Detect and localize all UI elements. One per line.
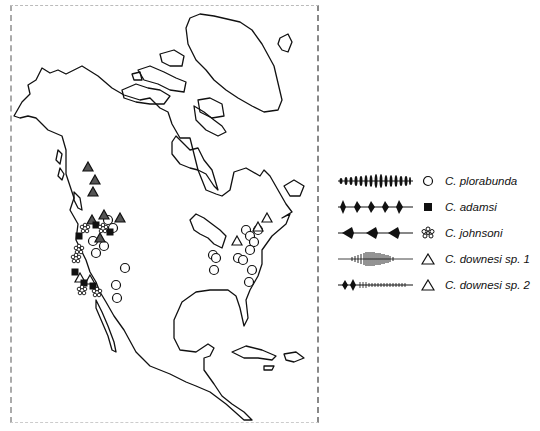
newfoundland — [284, 180, 304, 196]
asterisk-flower-icon — [421, 226, 435, 240]
square-marker-icon — [76, 233, 83, 240]
legend-label: C. downesi sp. 1 — [445, 253, 530, 265]
arctic-island-4 — [132, 72, 142, 80]
shaded-triangle-marker-icon — [99, 210, 109, 219]
legend-row-johnsoni: C. johnsoni — [338, 220, 530, 246]
cuba — [232, 346, 276, 360]
asterisk-marker-icon — [92, 289, 96, 293]
circle-marker-icon — [239, 256, 248, 265]
circle-marker-icon — [210, 266, 219, 275]
baffin-island — [194, 106, 226, 136]
asterisk-marker-icon — [82, 291, 86, 295]
asterisk-marker-icon — [83, 287, 87, 291]
asterisk-marker-icon — [86, 225, 90, 229]
arctic-island-2 — [138, 66, 186, 92]
open-triangle-marker-icon — [232, 236, 242, 245]
legend-row-plorabunda: C. plorabunda — [338, 168, 530, 194]
open-triangle-marker-icon — [262, 213, 272, 222]
open-triangle-icon — [421, 252, 435, 266]
filled-square-icon — [421, 200, 435, 214]
asterisk-marker-icon — [98, 289, 102, 293]
circle-marker-icon — [100, 242, 109, 251]
shaded-triangle-marker-icon — [88, 187, 98, 196]
jamaica — [264, 366, 274, 370]
asterisk-marker-icon — [79, 250, 83, 254]
asterisk-marker-icon — [72, 259, 76, 263]
hispaniola — [284, 352, 304, 362]
arctic-island-5 — [198, 98, 224, 118]
greenland — [186, 14, 282, 112]
circle-marker-icon — [248, 266, 257, 275]
asterisk-marker-icon — [97, 293, 101, 297]
circle-marker-icon — [245, 278, 254, 287]
asterisk-marker-icon — [74, 246, 78, 250]
hudson-bay — [172, 136, 218, 190]
asterisk-marker-icon — [104, 225, 108, 229]
asterisk-marker-icon — [99, 229, 103, 233]
baja-california — [96, 300, 116, 352]
waveform-triangular-pulse-icon — [338, 224, 413, 242]
asterisk-marker-icon — [80, 246, 84, 250]
legend-row-downesi-1: C. downesi sp. 1 — [338, 246, 530, 272]
north-america-map — [0, 0, 330, 431]
circle-marker-icon — [113, 294, 122, 303]
asterisk-marker-icon — [77, 287, 81, 291]
arctic-island-3 — [160, 50, 184, 66]
waveform-regular-pulse-icon — [338, 172, 413, 190]
waveform-spaced-pulse-icon — [338, 198, 413, 216]
shaded-triangle-marker-icon — [115, 213, 125, 222]
shaded-triangle-marker-icon — [83, 162, 93, 171]
asterisk-marker-icon — [103, 229, 107, 233]
legend: C. plorabunda C. adamsi C. johnsoni — [338, 168, 530, 298]
asterisk-marker-icon — [80, 225, 84, 229]
great-lakes — [190, 214, 226, 248]
asterisk-marker-icon — [76, 259, 80, 263]
square-marker-icon — [107, 229, 114, 236]
square-marker-icon — [72, 269, 79, 276]
coastal-island-1 — [56, 150, 62, 164]
shaded-triangle-marker-icon — [90, 175, 100, 184]
legend-label: C. adamsi — [445, 201, 497, 213]
asterisk-marker-icon — [81, 229, 85, 233]
species-markers — [71, 162, 272, 303]
asterisk-marker-icon — [77, 255, 81, 259]
circle-marker-icon — [212, 254, 221, 263]
iceland — [278, 34, 292, 52]
asterisk-marker-icon — [78, 291, 82, 295]
legend-row-adamsi: C. adamsi — [338, 194, 530, 220]
circle-marker-icon — [121, 264, 130, 273]
circle-marker-icon — [92, 249, 101, 258]
circle-marker-icon — [246, 246, 255, 255]
open-circle-icon — [421, 174, 435, 188]
asterisk-marker-icon — [71, 255, 75, 259]
legend-label: C. plorabunda — [445, 175, 517, 187]
asterisk-marker-icon — [98, 225, 102, 229]
open-triangle-icon — [421, 278, 435, 292]
waveform-pulses-trill-icon — [338, 276, 413, 294]
legend-row-downesi-2: C. downesi sp. 2 — [338, 272, 530, 298]
vancouver-island — [74, 192, 82, 210]
coastal-island-2 — [58, 168, 64, 180]
waveform-dense-buzz-icon — [338, 250, 413, 268]
circle-marker-icon — [112, 281, 121, 290]
asterisk-marker-icon — [85, 229, 89, 233]
asterisk-marker-icon — [93, 293, 97, 297]
legend-label: C. downesi sp. 2 — [445, 279, 530, 291]
legend-label: C. johnsoni — [445, 227, 503, 239]
